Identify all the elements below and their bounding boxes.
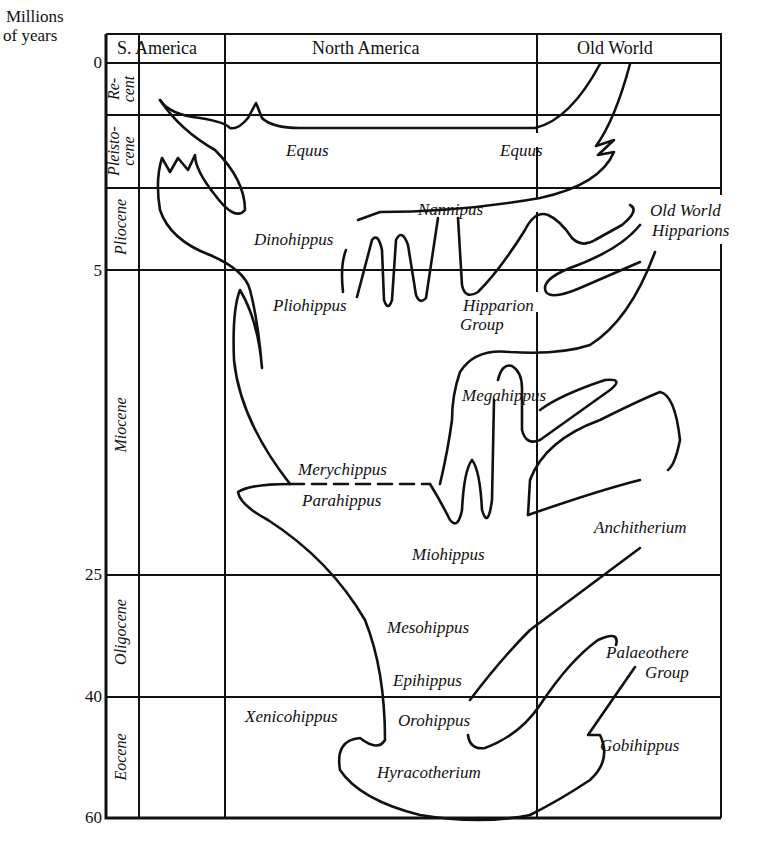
- frame-left-bottom: [106, 34, 721, 818]
- label-dinohippus: Dinohippus: [254, 230, 333, 249]
- label-pliohippus: Pliohippus: [273, 296, 347, 315]
- epoch-pleistocene: Pleisto-cene: [106, 115, 136, 187]
- anchitherium-lineage: [528, 392, 680, 515]
- axis-title-line1: Millions: [6, 8, 64, 26]
- epoch-miocene: Miocene: [113, 380, 128, 470]
- epoch-eocene: Eocene: [113, 722, 128, 792]
- label-hipparion-2: Group: [460, 315, 504, 334]
- megahippus-outer: [440, 252, 655, 484]
- label-parahippus: Parahippus: [302, 491, 381, 510]
- s-america-lineage: [158, 100, 290, 484]
- column-header-north-america: North America: [312, 38, 419, 58]
- pliohippus-wiggle: [357, 218, 438, 306]
- label-xenicohippus: Xenicohippus: [245, 707, 338, 726]
- tick-5: 5: [72, 262, 102, 280]
- grid: [106, 34, 721, 818]
- epoch-recent: Re-cent: [106, 64, 136, 114]
- label-gobihippus: Gobihippus: [600, 736, 679, 755]
- tick-40: 40: [72, 688, 102, 706]
- label-equus-na: Equus: [286, 141, 329, 160]
- mesohippus-anchitherium: [470, 548, 640, 700]
- ow-hipparion-loop: [545, 225, 640, 295]
- label-palaeothere-2: Group: [645, 663, 689, 682]
- label-mesohippus: Mesohippus: [387, 618, 469, 637]
- palaeothere-lineage: [468, 636, 617, 748]
- label-palaeothere-1: Palaeothere: [606, 643, 688, 662]
- label-ow-hipparions-1: Old World: [650, 201, 721, 220]
- label-epihippus: Epihippus: [393, 671, 462, 690]
- tick-25: 25: [72, 566, 102, 584]
- column-header-old-world: Old World: [577, 38, 653, 58]
- tick-0: 0: [72, 54, 102, 72]
- axis-title-line2: of years: [3, 27, 57, 45]
- tick-60: 60: [72, 809, 102, 827]
- label-anchitherium: Anchitherium: [594, 518, 687, 537]
- label-hyracotherium: Hyracotherium: [377, 763, 481, 782]
- miohippus-lineage: [430, 400, 494, 523]
- label-orohippus: Orohippus: [398, 711, 470, 730]
- label-merychippus: Merychippus: [298, 460, 387, 479]
- label-hipparion-1: Hipparion: [463, 296, 534, 315]
- label-ow-hipparions-2: Hipparions: [652, 221, 729, 240]
- label-equus-ow: Equus: [500, 141, 543, 160]
- column-header-s-america: S. America: [117, 38, 197, 58]
- lineages: [158, 64, 680, 820]
- label-miohippus: Miohippus: [412, 545, 485, 564]
- label-nannipus: Nannipus: [418, 200, 483, 219]
- ow-equus-lineage: [358, 64, 630, 220]
- epoch-pliocene: Pliocene: [113, 189, 128, 265]
- epoch-oligocene: Oligocene: [113, 582, 128, 682]
- label-megahippus: Megahippus: [462, 386, 546, 405]
